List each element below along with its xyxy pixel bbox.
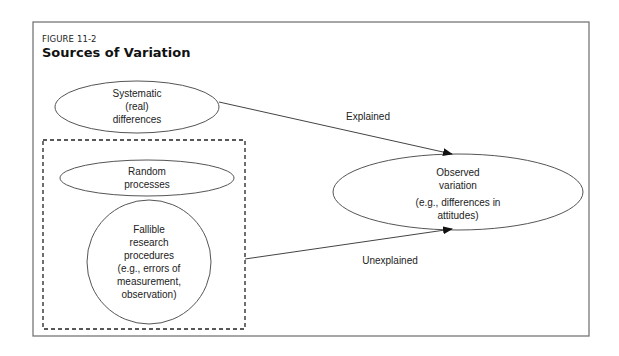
diagram-canvas: FIGURE 11-2 Sources of Variation Systema… bbox=[0, 0, 619, 356]
node-text: Random bbox=[128, 166, 166, 177]
node-text: variation bbox=[439, 180, 477, 191]
arrow-explained bbox=[219, 102, 452, 154]
node-systematic-differences: Systematic (real) differences bbox=[55, 81, 219, 133]
node-random-processes: Random processes bbox=[60, 160, 234, 196]
node-text: procedures bbox=[124, 250, 174, 261]
edge-label-explained: Explained bbox=[346, 111, 390, 122]
arrow-unexplained bbox=[245, 229, 452, 259]
node-text: (real) bbox=[125, 101, 148, 112]
figure-number: FIGURE 11-2 bbox=[42, 34, 97, 44]
node-text: differences bbox=[113, 114, 162, 125]
node-text: Systematic bbox=[113, 88, 162, 99]
node-fallible-procedures: Fallible research procedures (e.g., erro… bbox=[87, 200, 211, 324]
node-text: (e.g., errors of bbox=[118, 263, 181, 274]
node-text: Observed bbox=[436, 167, 479, 178]
edge-label-unexplained: Unexplained bbox=[362, 255, 418, 266]
node-text: processes bbox=[124, 179, 170, 190]
node-text: observation) bbox=[121, 289, 176, 300]
edge-unexplained: Unexplained bbox=[245, 229, 452, 266]
figure-title: Sources of Variation bbox=[42, 45, 190, 60]
node-observed-variation: Observed variation (e.g., differences in… bbox=[333, 154, 583, 230]
node-text: Fallible bbox=[133, 224, 165, 235]
node-text: measurement, bbox=[117, 276, 181, 287]
node-text: (e.g., differences in bbox=[416, 197, 501, 208]
edge-explained: Explained bbox=[219, 102, 452, 154]
node-text: attitudes) bbox=[437, 210, 478, 221]
node-text: research bbox=[130, 237, 169, 248]
